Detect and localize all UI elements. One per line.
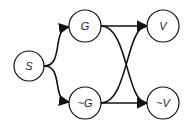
node-not-v: ~V: [147, 87, 179, 119]
node-g: G: [69, 10, 101, 42]
node-s-label: S: [25, 60, 33, 72]
diagram-canvas: S G ~G V ~V: [0, 0, 192, 126]
node-not-g-label: ~G: [78, 97, 93, 109]
node-not-v-label: ~V: [156, 97, 171, 109]
node-g-label: G: [81, 20, 90, 32]
node-not-g: ~G: [69, 87, 101, 119]
edge-s-to-g: [44, 27, 69, 66]
edge-s-to-notg: [44, 66, 69, 102]
edge-g-to-notv: [101, 26, 147, 103]
edge-notg-to-v: [101, 26, 147, 103]
node-v: V: [147, 10, 179, 42]
node-s: S: [14, 51, 44, 81]
